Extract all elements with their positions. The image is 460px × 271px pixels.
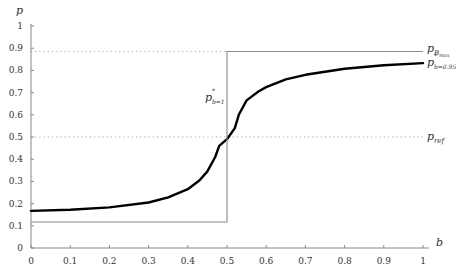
x-tick-label: 0.2: [102, 256, 116, 266]
svg-text:*: *: [434, 52, 437, 59]
x-tick-label: 0.1: [63, 256, 77, 266]
svg-text:p: p: [205, 91, 212, 104]
x-tick-label: 0.3: [141, 256, 156, 266]
x-tick-label: 0.9: [377, 256, 392, 266]
x-tick-label: 0.6: [259, 256, 274, 266]
x-tick-label: 0.5: [220, 256, 235, 266]
y-tick-label: 0.8: [9, 65, 24, 75]
y-tick-label: 0.3: [9, 176, 24, 186]
x-axis-label: b: [436, 236, 443, 249]
label-p-ref: p ref: [427, 130, 445, 145]
svg-text:ref: ref: [434, 137, 445, 145]
axes: 00.10.20.30.40.50.60.70.80.9100.10.20.30…: [9, 21, 429, 266]
svg-text:max: max: [439, 52, 450, 58]
x-tick-label: 0.4: [181, 256, 196, 266]
svg-text:p: p: [427, 56, 434, 69]
y-axis-label: p: [16, 4, 23, 17]
x-tick-label: 0.8: [337, 256, 352, 266]
y-tick-label: 0: [17, 243, 23, 253]
y-tick-label: 0.9: [9, 43, 24, 53]
svg-text:b=0.95: b=0.95: [434, 63, 456, 70]
y-tick-label: 0.1: [9, 221, 23, 231]
label-p-star-b1: p * b=1: [205, 87, 225, 105]
svg-text:p: p: [427, 42, 434, 55]
svg-text:p: p: [427, 130, 434, 143]
svg-text:b=1: b=1: [212, 98, 225, 105]
x-tick-label: 0: [28, 256, 34, 266]
x-tick-label: 0.7: [298, 256, 313, 266]
y-tick-label: 0.4: [9, 154, 24, 164]
y-tick-label: 1: [17, 21, 23, 31]
x-tick-label: 1: [420, 256, 426, 266]
y-tick-label: 0.2: [9, 199, 23, 209]
y-tick-label: 0.5: [9, 132, 24, 142]
svg-text:*: *: [212, 87, 215, 94]
line-chart: 00.10.20.30.40.50.60.70.80.9100.10.20.30…: [0, 0, 460, 271]
y-tick-label: 0.7: [9, 88, 24, 98]
y-tick-label: 0.6: [9, 110, 24, 120]
